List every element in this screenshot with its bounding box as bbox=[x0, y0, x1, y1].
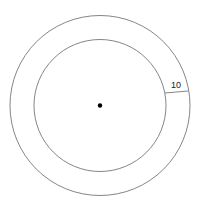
annulus-diagram: 10 bbox=[0, 0, 201, 210]
center-point bbox=[98, 103, 102, 107]
ring-width-label: 10 bbox=[171, 80, 181, 90]
ring-width-segment bbox=[165, 91, 188, 93]
